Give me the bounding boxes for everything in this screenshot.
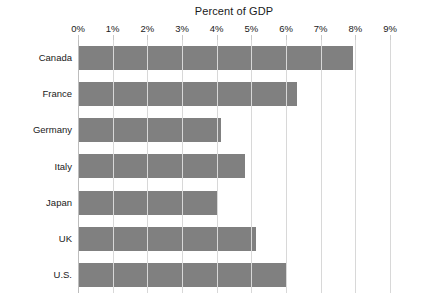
x-axis-tick-mark [147,35,148,40]
gridline [217,40,218,293]
y-axis-category-label: Germany [0,124,72,136]
gridline [286,40,287,293]
bar [79,227,256,251]
x-axis-tick-mark [321,35,322,40]
y-axis-category-label: Canada [0,52,72,64]
y-axis-category-labels: CanadaFranceGermanyItalyJapanUKU.S. [0,40,72,293]
y-axis-category-label: Japan [0,197,72,209]
x-axis-tick-mark [113,35,114,40]
gridline [321,40,322,293]
bar-row [78,76,390,112]
x-axis-tick-mark [251,35,252,40]
bar [79,263,287,287]
gridline [390,40,391,293]
x-axis-tick-mark [78,35,79,40]
bar [79,154,245,178]
x-axis-tick-mark [390,35,391,40]
bar-row [78,257,390,293]
chart-title: Percent of GDP [78,5,390,17]
bars-layer [78,40,390,293]
x-axis-tick-mark [217,35,218,40]
y-axis-category-label: UK [0,233,72,245]
bar [79,118,221,142]
gridline [113,40,114,293]
bar-row [78,221,390,257]
bar [79,191,218,215]
bar-row [78,40,390,76]
y-axis-category-label: France [0,88,72,100]
gridline [147,40,148,293]
x-axis-tick-label: 9% [370,23,410,34]
gridline [355,40,356,293]
bar-row [78,185,390,221]
x-axis-tick-mark [355,35,356,40]
x-axis-tick-mark [286,35,287,40]
y-axis-line [78,40,79,293]
x-axis-tick-labels: 0%1%2%3%4%5%6%7%8%9% [0,23,424,37]
y-axis-category-label: U.S. [0,269,72,281]
bar-row [78,148,390,184]
bar-chart: Percent of GDP 0%1%2%3%4%5%6%7%8%9% Cana… [0,0,424,305]
gridline [251,40,252,293]
plot-area [78,40,390,293]
y-axis-category-label: Italy [0,161,72,173]
gridline [182,40,183,293]
bar-row [78,112,390,148]
x-axis-tick-mark [182,35,183,40]
